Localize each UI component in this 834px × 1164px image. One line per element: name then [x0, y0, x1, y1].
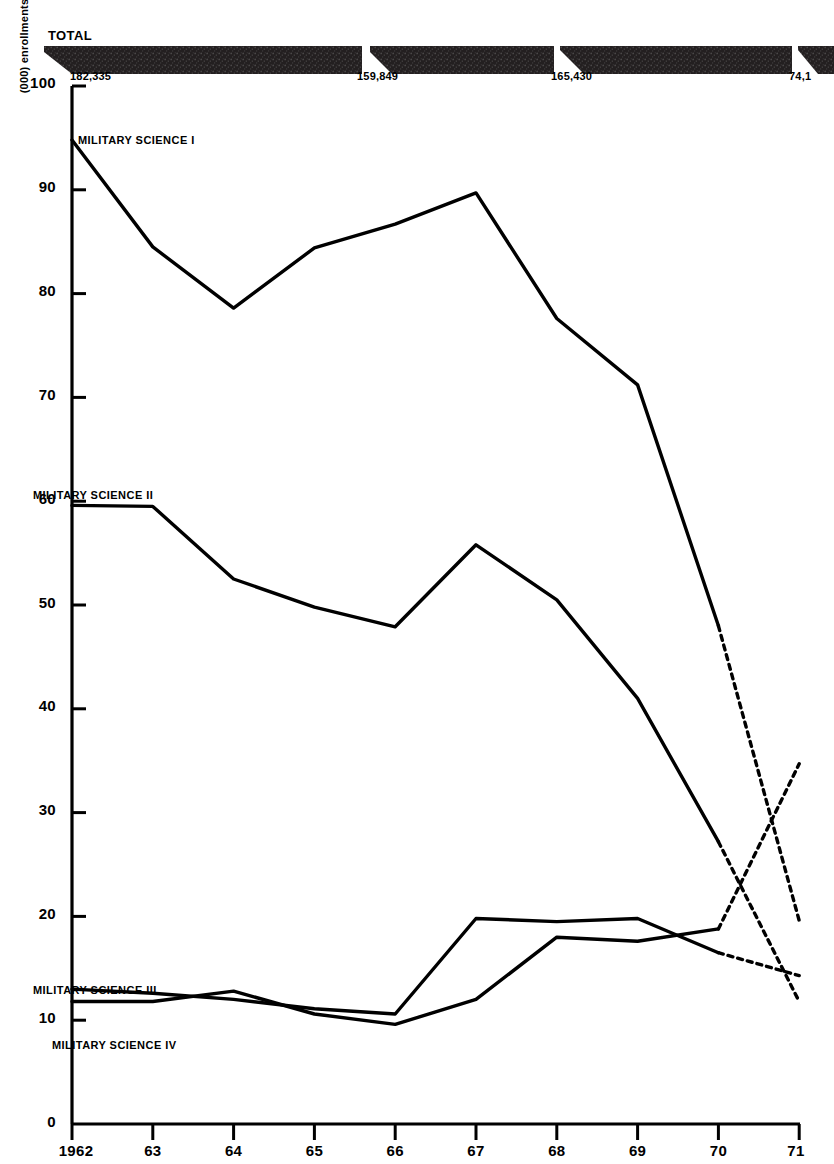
- series-label-military-science-i: MILITARY SCIENCE I: [78, 134, 195, 146]
- data-series-group: [72, 140, 799, 1024]
- x-tick-1966: 66: [387, 1142, 404, 1159]
- series-label-military-science-iv: MILITARY SCIENCE IV: [52, 1039, 176, 1051]
- y-tick-50: 50: [10, 594, 56, 611]
- series-path-1-actual: [72, 140, 718, 626]
- x-tick-marks: [72, 1124, 799, 1140]
- x-tick-1967: 67: [467, 1142, 484, 1159]
- y-tick-40: 40: [10, 697, 56, 714]
- x-tick-1968: 68: [548, 1142, 565, 1159]
- y-tick-10: 10: [10, 1009, 56, 1026]
- series-path-1-projected: [718, 626, 799, 921]
- series-label-military-science-iii: MILITARY SCIENCE III: [33, 984, 157, 996]
- y-tick-20: 20: [10, 905, 56, 922]
- x-tick-1962: 1962: [59, 1142, 94, 1159]
- y-tick-30: 30: [10, 801, 56, 818]
- y-tick-marks: [72, 86, 86, 1020]
- y-tick-70: 70: [10, 386, 56, 403]
- series-path-2-actual: [72, 505, 718, 841]
- y-tick-100: 100: [10, 74, 56, 91]
- series-path-4-actual: [72, 929, 718, 1025]
- x-tick-1963: 63: [144, 1142, 161, 1159]
- y-tick-90: 90: [10, 178, 56, 195]
- x-tick-1964: 64: [225, 1142, 242, 1159]
- series-path-2-projected: [718, 842, 799, 1002]
- x-tick-1965: 65: [306, 1142, 323, 1159]
- series-label-military-science-ii: MILITARY SCIENCE II: [33, 489, 153, 501]
- y-tick-0: 0: [10, 1113, 56, 1130]
- y-tick-80: 80: [10, 282, 56, 299]
- series-path-4-projected: [718, 764, 799, 929]
- x-tick-1969: 69: [629, 1142, 646, 1159]
- x-tick-1971: 71: [787, 1142, 804, 1159]
- x-tick-1970: 70: [710, 1142, 727, 1159]
- series-path-3-projected: [718, 953, 799, 976]
